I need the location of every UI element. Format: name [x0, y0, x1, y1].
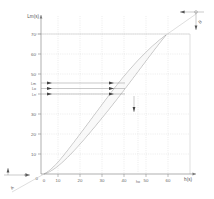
x-axis-arrow: [193, 173, 197, 176]
y-axis-label: Lm(s): [27, 14, 39, 19]
y-tick-label: 50: [31, 72, 36, 77]
annotation-label-a: A: [9, 185, 15, 191]
x-tick-label: 40: [122, 178, 127, 183]
y-special-tick-lm: Lm: [31, 82, 36, 86]
vertical-marker-ho: [133, 96, 136, 112]
y-tick-label: 30: [31, 112, 36, 117]
annotation-bottom-left: A: [4, 168, 44, 192]
horizontal-marker-lm: [41, 82, 125, 85]
horizontal-marker-lo: [41, 87, 125, 90]
x-tick-label: 30: [100, 178, 105, 183]
annotation-top-right: B: [166, 11, 204, 35]
x-special-tick-ho: ho: [136, 180, 140, 184]
x-tick-label: 60: [166, 178, 171, 183]
y-tick-label: 20: [31, 132, 36, 137]
x-tick-label: 0: [43, 178, 46, 183]
y-tick-label: 60: [31, 52, 36, 57]
y-tick-label: 70: [31, 32, 36, 37]
x-tick-label: 20: [78, 178, 83, 183]
x-tick-label: 50: [144, 178, 149, 183]
x-tick-marks: [58, 174, 168, 177]
band-fill: [44, 35, 166, 174]
x-tick-label: 10: [56, 178, 61, 183]
y-tick-marks: [38, 34, 41, 154]
y-axis-arrow: [40, 15, 43, 18]
x-axis-label: h(s): [184, 177, 192, 182]
chart-figure: 70 60 50 30 20 10 0 Lm Lo Ln 0 10 20 30 …: [0, 0, 214, 199]
y-special-tick-ln: Ln: [32, 93, 36, 97]
chart-svg: 70 60 50 30 20 10 0 Lm Lo Ln 0 10 20 30 …: [0, 0, 214, 199]
y-tick-label: 10: [31, 152, 36, 157]
y-special-tick-lo: Lo: [32, 87, 36, 91]
annotation-label-b: B: [197, 19, 203, 25]
